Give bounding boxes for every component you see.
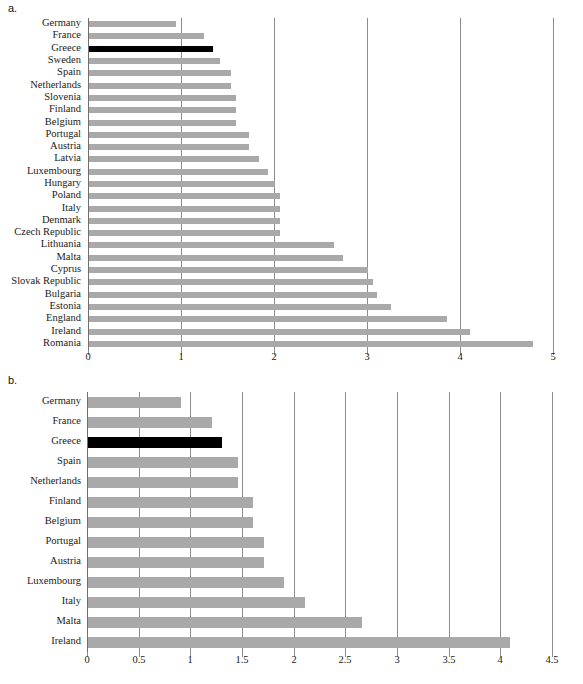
bar-finland [88, 497, 253, 508]
x-axis-tick-label: 4.5 [545, 655, 558, 666]
x-gridline [460, 18, 461, 350]
bar-ireland [88, 637, 510, 648]
x-axis-tick-label: 1 [187, 655, 192, 666]
bar-cyprus [89, 267, 368, 273]
bar-germany [88, 397, 181, 408]
bar-bulgaria [89, 292, 377, 298]
x-axis-tick-label: 3.5 [442, 655, 455, 666]
bar-italy [88, 597, 305, 608]
chart-b-axes: 00.511.522.533.544.5 [0, 372, 583, 682]
bar-italy [89, 206, 280, 212]
bar-belgium [89, 120, 236, 126]
bar-france [89, 33, 204, 39]
bar-sweden [89, 58, 220, 64]
x-axis-tick-label: 0 [85, 352, 90, 363]
bar-lithuania [89, 242, 334, 248]
bar-portugal [88, 537, 264, 548]
x-gridline [345, 392, 346, 652]
bar-latvia [89, 156, 259, 162]
x-gridline [500, 392, 501, 652]
bar-spain [89, 70, 231, 76]
bar-malta [89, 255, 343, 261]
bar-malta [88, 617, 362, 628]
bar-finland [89, 107, 236, 113]
bar-austria [89, 144, 249, 150]
panel-a: a. GermanyFranceGreeceSwedenSpainNetherl… [0, 0, 583, 372]
x-gridline [367, 18, 368, 350]
x-axis-tick-label: 5 [550, 352, 555, 363]
x-axis-tick-label: 3 [364, 352, 369, 363]
bar-slovenia [89, 95, 236, 101]
panel-b: b. GermanyFranceGreeceSpainNetherlandsFi… [0, 372, 583, 684]
bar-luxembourg [88, 577, 284, 588]
bar-belgium [88, 517, 253, 528]
bar-hungary [89, 181, 275, 187]
bar-estonia [89, 304, 391, 310]
bar-netherlands [89, 83, 231, 89]
x-gridline [449, 392, 450, 652]
bar-romania [89, 341, 533, 347]
bar-france [88, 417, 212, 428]
x-axis-tick-label: 4 [497, 655, 502, 666]
bar-netherlands [88, 477, 238, 488]
bar-england [89, 316, 447, 322]
bar-luxembourg [89, 169, 268, 175]
bar-spain [88, 457, 238, 468]
x-gridline [397, 392, 398, 652]
x-gridline [552, 392, 553, 652]
x-axis-tick-label: 0.5 [132, 655, 145, 666]
x-axis-tick-label: 1.5 [235, 655, 248, 666]
bar-greece [89, 46, 213, 52]
bar-portugal [89, 132, 249, 138]
x-axis-tick-label: 3 [394, 655, 399, 666]
bar-czech-republic [89, 230, 280, 236]
x-gridline [553, 18, 554, 350]
x-axis-tick-label: 0 [84, 655, 89, 666]
figure-root: a. GermanyFranceGreeceSwedenSpainNetherl… [0, 0, 583, 684]
bar-greece [88, 437, 222, 448]
x-axis-tick-label: 2.5 [338, 655, 351, 666]
x-axis-tick-label: 2 [271, 352, 276, 363]
x-axis-tick-label: 1 [178, 352, 183, 363]
x-axis-tick-label: 2 [291, 655, 296, 666]
x-axis-tick-label: 4 [457, 352, 462, 363]
bar-denmark [89, 218, 280, 224]
chart-a-axes: 012345 [0, 0, 583, 380]
bar-slovak-republic [89, 279, 373, 285]
x-gridline [294, 392, 295, 652]
bar-ireland [89, 329, 470, 335]
bar-germany [89, 21, 176, 27]
bar-austria [88, 557, 264, 568]
bar-poland [89, 193, 280, 199]
